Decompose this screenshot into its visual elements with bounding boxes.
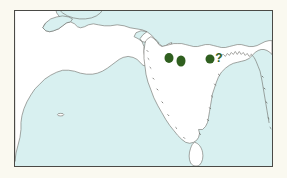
small-islet <box>57 113 63 116</box>
map-frame: ? <box>14 10 273 167</box>
map-canvas <box>15 11 272 166</box>
distribution-map-figure: ? <box>0 0 287 178</box>
